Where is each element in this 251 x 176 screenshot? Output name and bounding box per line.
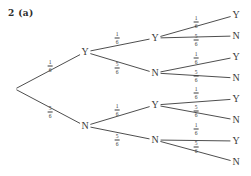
tree-leaf-l3-y: Y <box>232 52 239 62</box>
fraction-numerator: 1 <box>115 104 120 110</box>
fraction-numerator: 1 <box>48 60 53 66</box>
page-title: 2 (a) <box>8 8 34 18</box>
tree-branch-b3 <box>91 39 149 51</box>
fraction-denominator: 6 <box>194 148 199 154</box>
tree-leaf-l2-n: N <box>232 31 239 41</box>
branch-probability-b10: 56 <box>194 70 199 83</box>
fraction-denominator: 6 <box>115 111 120 117</box>
fraction-denominator: 6 <box>194 59 199 65</box>
fraction-denominator: 6 <box>115 141 120 147</box>
branch-probability-b9: 16 <box>194 52 199 65</box>
fraction-numerator: 5 <box>115 62 120 68</box>
fraction-numerator: 5 <box>194 141 199 147</box>
fraction-denominator: 6 <box>194 94 199 100</box>
fraction-numerator: 1 <box>194 52 199 58</box>
tree-leaf-l7-y: Y <box>232 136 239 146</box>
fraction-numerator: 5 <box>194 70 199 76</box>
fraction-denominator: 6 <box>194 130 199 136</box>
tree-leaf-l6-n: N <box>232 115 239 125</box>
branch-probability-b8: 56 <box>194 34 199 47</box>
tree-leaf-l1-y: Y <box>232 10 239 20</box>
fraction-denominator: 6 <box>194 23 199 29</box>
tree-node-n3-y: Y <box>151 33 158 43</box>
fraction-numerator: 1 <box>115 32 120 38</box>
tree-node-n6-n: N <box>151 135 158 145</box>
fraction-numerator: 5 <box>194 34 199 40</box>
tree-branch-lines <box>0 0 251 176</box>
probability-tree-diagram: 2 (a) YNYNYNYNYNYNYN 1656165616561656165… <box>0 0 251 176</box>
branch-probability-b14: 56 <box>194 141 199 154</box>
branch-probability-b5: 16 <box>115 104 120 117</box>
fraction-numerator: 1 <box>194 16 199 22</box>
branch-probability-b6: 56 <box>115 134 120 147</box>
fraction-numerator: 1 <box>194 123 199 129</box>
branch-probability-b12: 56 <box>194 105 199 118</box>
fraction-denominator: 6 <box>194 77 199 83</box>
branch-probability-b4: 56 <box>115 62 120 75</box>
tree-leaf-l5-y: Y <box>232 94 239 104</box>
tree-node-n4-n: N <box>151 68 158 78</box>
tree-node-n2-n: N <box>81 121 88 131</box>
fraction-denominator: 6 <box>115 39 120 45</box>
fraction-denominator: 6 <box>115 69 120 75</box>
tree-branch-b5 <box>91 107 150 125</box>
fraction-numerator: 5 <box>194 105 199 111</box>
branch-probability-b2: 56 <box>48 106 53 119</box>
tree-node-n5-y: Y <box>151 100 158 110</box>
branch-probability-b13: 16 <box>194 123 199 136</box>
tree-branch-b6 <box>91 127 149 139</box>
branch-probability-b3: 16 <box>115 32 120 45</box>
tree-leaf-l8-n: N <box>232 157 239 167</box>
fraction-denominator: 6 <box>48 67 53 73</box>
fraction-numerator: 1 <box>194 87 199 93</box>
fraction-numerator: 5 <box>48 106 53 112</box>
branch-probability-b11: 16 <box>194 87 199 100</box>
tree-node-n1-y: Y <box>81 47 88 57</box>
fraction-denominator: 6 <box>48 113 53 119</box>
tree-leaf-l4-n: N <box>232 73 239 83</box>
fraction-denominator: 6 <box>194 41 199 47</box>
fraction-denominator: 6 <box>194 112 199 118</box>
fraction-numerator: 5 <box>115 134 120 140</box>
branch-probability-b7: 16 <box>194 16 199 29</box>
branch-probability-b1: 16 <box>48 60 53 73</box>
tree-branch-b4 <box>91 54 150 72</box>
